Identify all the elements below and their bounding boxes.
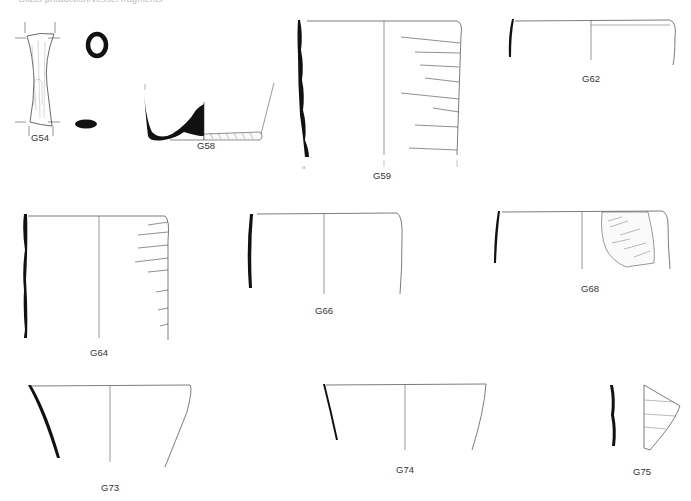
figure-label: G75 <box>622 466 662 477</box>
figure-label: G73 <box>90 482 130 493</box>
figure-g75: G75 <box>600 380 680 490</box>
figure-g59: ıı G59 <box>295 15 475 185</box>
figure-label: G58 <box>186 140 226 151</box>
g59-drawing: ıı <box>295 15 475 185</box>
figure-g62: G62 <box>505 15 685 105</box>
figure-label: G62 <box>571 73 611 84</box>
figure-label: G68 <box>570 283 610 294</box>
g64-drawing <box>20 210 190 360</box>
figure-label: G59 <box>362 170 402 181</box>
figure-g74: G74 <box>320 382 490 482</box>
figure-g66: G66 <box>245 210 415 320</box>
svg-text:ıı: ıı <box>302 164 306 170</box>
g54-drawing <box>0 0 120 150</box>
g66-drawing <box>245 210 415 320</box>
g68-drawing <box>490 205 675 315</box>
g73-drawing <box>25 382 200 492</box>
g62-drawing <box>505 15 685 105</box>
figure-g58: G58 <box>140 80 280 150</box>
figure-g73: G73 <box>25 382 200 492</box>
figure-g68: G68 <box>490 205 675 315</box>
figure-g64: G64 <box>20 210 190 360</box>
figure-label: G74 <box>385 464 425 475</box>
figure-label: G64 <box>79 347 119 358</box>
figure-label: G54 <box>20 132 60 143</box>
figure-label: G66 <box>304 305 344 316</box>
figure-g54: G54 <box>0 0 120 150</box>
